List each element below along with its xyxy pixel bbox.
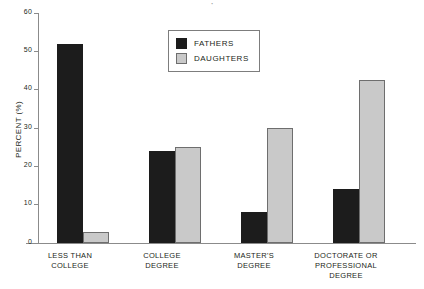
legend-label-daughters: DAUGHTERS xyxy=(194,54,249,63)
x-axis-line xyxy=(26,243,416,244)
y-tick-mark-30 xyxy=(34,128,38,129)
bar-fathers-college-degree[interactable] xyxy=(149,151,175,243)
y-axis-title: PERCENT (%) xyxy=(14,75,23,185)
y-tick-20: 20 xyxy=(14,166,38,167)
y-tick-mark-0 xyxy=(34,243,38,244)
bar-daughters-masters-degree[interactable] xyxy=(267,128,293,243)
legend: FATHERS DAUGHTERS xyxy=(168,30,260,72)
bar-fathers-masters-degree[interactable] xyxy=(241,212,267,243)
x-label-line: DEGREE xyxy=(291,271,401,281)
x-label-line: DOCTORATE OR xyxy=(291,251,401,261)
y-tick-mark-40 xyxy=(34,89,38,90)
legend-item-fathers[interactable]: FATHERS xyxy=(176,36,249,51)
y-tick-mark-20 xyxy=(34,166,38,167)
y-tick-40: 40 xyxy=(14,89,38,90)
daughters-swatch-icon xyxy=(176,53,187,64)
y-tick-label-0: 0 xyxy=(28,238,32,245)
legend-item-daughters[interactable]: DAUGHTERS xyxy=(176,51,249,66)
legend-label-fathers: FATHERS xyxy=(194,39,234,48)
y-tick-label-30: 30 xyxy=(24,123,32,130)
bar-daughters-doctorate-or-professional-degree[interactable] xyxy=(359,80,385,243)
y-tick-60: 60 xyxy=(14,13,38,14)
bar-fathers-doctorate-or-professional-degree[interactable] xyxy=(333,189,359,243)
bar-fathers-less-than-college[interactable] xyxy=(57,44,83,243)
fathers-swatch-icon xyxy=(176,38,187,49)
y-tick-mark-10 xyxy=(34,204,38,205)
bar-chart: · PERCENT (%) 0 10 20 30 40 50 60 xyxy=(0,0,424,289)
y-tick-label-60: 60 xyxy=(24,8,32,15)
y-tick-label-20: 20 xyxy=(24,161,32,168)
y-tick-0: 0 xyxy=(14,243,38,244)
y-tick-30: 30 xyxy=(14,128,38,129)
y-tick-mark-50 xyxy=(34,51,38,52)
y-tick-label-50: 50 xyxy=(24,46,32,53)
y-tick-label-40: 40 xyxy=(24,84,32,91)
bar-daughters-less-than-college[interactable] xyxy=(83,232,109,244)
x-label-doctorate-or-professional-degree: DOCTORATE OR PROFESSIONAL DEGREE xyxy=(291,251,401,281)
y-tick-mark-60 xyxy=(34,13,38,14)
y-tick-50: 50 xyxy=(14,51,38,52)
bar-daughters-college-degree[interactable] xyxy=(175,147,201,243)
cropped-title-remnant: · xyxy=(0,0,424,7)
y-tick-label-10: 10 xyxy=(24,199,32,206)
y-tick-10: 10 xyxy=(14,204,38,205)
x-label-line: PROFESSIONAL xyxy=(291,261,401,271)
